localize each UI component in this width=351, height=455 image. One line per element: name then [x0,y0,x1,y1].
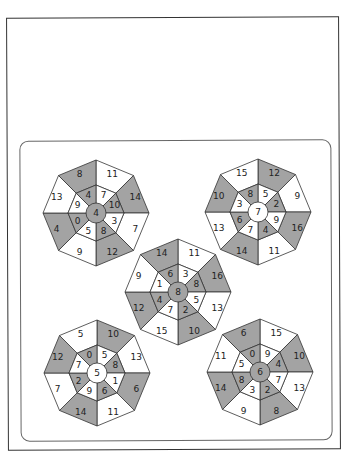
inner-number: 2 [183,305,189,315]
inner-number: 4 [276,359,282,369]
inner-number: 7 [76,360,82,370]
center-number: 7 [255,207,261,217]
octagon-bottom-left: 1051386111614972127505 [44,320,150,426]
outer-number: 11 [189,248,200,258]
inner-number: 8 [247,189,253,199]
outer-number: 12 [107,247,118,257]
outer-number: 15 [156,326,167,336]
inner-number: 7 [101,190,107,200]
inner-number: 8 [239,375,245,385]
inner-number: 3 [249,385,255,395]
inner-number: 9 [265,349,271,359]
octagon-middle: 113168135102157124911468 [125,239,231,345]
outer-number: 16 [212,271,224,281]
outer-number: 7 [132,224,138,234]
outer-number: 13 [213,223,224,233]
outer-number: 6 [133,384,139,394]
inner-number: 5 [85,226,91,236]
inner-number: 9 [86,386,92,396]
inner-number: 0 [75,216,81,226]
center-number: 8 [175,287,181,297]
outer-number: 8 [273,406,279,416]
outer-number: 14 [75,407,87,417]
outer-number: 6 [241,328,247,338]
outer-number: 14 [130,192,142,202]
inner-number: 8 [101,226,107,236]
outer-number: 14 [236,246,248,256]
inner-number: 2 [76,376,82,386]
outer-number: 15 [271,328,282,338]
outer-number: 16 [292,223,304,233]
outer-number: 10 [213,191,225,201]
outer-number: 10 [294,351,306,361]
outer-number: 7 [55,384,61,394]
outer-number: 14 [156,248,168,258]
outer-number: 15 [236,168,247,178]
inner-number: 1 [157,279,163,289]
inner-number: 6 [237,215,243,225]
outer-number: 9 [294,191,300,201]
octagon-bottom-right: 1591041378293148115606 [207,319,313,425]
inner-number: 4 [263,225,269,235]
outer-number: 10 [189,326,201,336]
inner-number: 5 [263,189,269,199]
inner-number: 8 [194,279,200,289]
outer-number: 11 [107,169,118,179]
outer-number: 9 [241,406,247,416]
inner-number: 9 [75,200,81,210]
outer-number: 4 [54,224,60,234]
inner-number: 7 [247,225,253,235]
inner-number: 0 [86,350,92,360]
outer-number: 13 [51,192,62,202]
outer-number: 8 [77,169,83,179]
outer-number: 14 [215,383,227,393]
inner-number: 4 [85,190,91,200]
outer-number: 13 [212,303,223,313]
inner-number: 3 [237,199,243,209]
inner-number: 2 [274,199,280,209]
inner-number: 10 [109,200,121,210]
outer-number: 11 [215,351,226,361]
inner-number: 1 [113,376,119,386]
inner-number: 5 [194,295,200,305]
inner-number: 4 [157,295,163,305]
inner-number: 5 [102,350,108,360]
center-number: 4 [93,208,99,218]
inner-number: 7 [276,375,282,385]
inner-number: 3 [183,269,189,279]
outer-number: 9 [136,271,142,281]
center-number: 6 [257,367,263,377]
inner-number: 9 [274,215,280,225]
inner-number: 5 [239,359,245,369]
outer-number: 12 [133,303,144,313]
outer-number: 13 [294,383,305,393]
inner-number: 3 [112,216,118,226]
inner-number: 0 [249,349,255,359]
outer-number: 11 [269,246,280,256]
inner-number: 6 [102,386,108,396]
outer-number: 9 [77,247,83,257]
octagon-top-right: 125921691141471361031587 [205,159,311,265]
outer-number: 10 [108,329,120,339]
outer-number: 12 [269,168,280,178]
outer-number: 11 [108,407,119,417]
inner-number: 8 [113,360,119,370]
octagon-puzzles: 1171410731289540139844125921691141471361… [0,0,351,455]
outer-number: 13 [131,352,142,362]
inner-number: 7 [167,305,173,315]
center-number: 5 [94,368,100,378]
outer-number: 5 [78,329,84,339]
octagon-top-left: 1171410731289540139844 [43,160,149,266]
outer-number: 12 [52,352,63,362]
inner-number: 6 [167,269,173,279]
inner-number: 2 [265,385,271,395]
